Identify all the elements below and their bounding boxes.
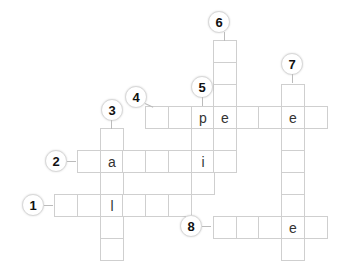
clue-3-label: 3 [108,103,115,118]
grid-cell-letter[interactable]: e [281,216,305,239]
clue-7-pointer [292,74,293,83]
grid-cell[interactable] [77,194,101,217]
grid-cell[interactable] [236,106,260,129]
grid-cell-letter[interactable]: e [213,106,237,129]
grid-cell[interactable] [304,216,328,239]
clue-1-label: 1 [29,198,36,213]
grid-cell[interactable] [54,194,78,217]
grid-cell[interactable] [281,172,305,195]
clue-number-1: 1 [22,194,44,216]
clue-8-pointer [202,226,211,227]
grid-cell[interactable] [100,172,124,195]
grid-cell[interactable] [213,150,237,173]
grid-cell-letter[interactable]: e [281,106,305,129]
grid-cell[interactable] [281,238,305,261]
grid-cell[interactable] [236,216,260,239]
clue-number-6: 6 [208,11,230,33]
grid-cell-letter[interactable]: a [100,150,124,173]
clue-number-8: 8 [180,215,202,237]
grid-cell[interactable] [100,128,124,151]
clue-1-pointer [44,205,53,206]
grid-cell[interactable] [168,150,192,173]
clue-5-pointer [202,97,203,106]
grid-cell-letter[interactable]: i [191,150,215,173]
clue-number-5: 5 [191,76,213,98]
grid-cell[interactable] [213,62,237,85]
clue-2-label: 2 [52,154,59,169]
grid-cell[interactable] [281,150,305,173]
clue-number-3: 3 [101,99,123,121]
grid-cell[interactable] [281,84,305,107]
grid-cell[interactable] [258,216,282,239]
clue-6-label: 6 [215,15,222,30]
clue-8-label: 8 [187,219,194,234]
clue-2-pointer [67,161,76,162]
grid-cell[interactable] [191,128,215,151]
grid-cell[interactable] [213,40,237,63]
clue-7-label: 7 [288,57,295,72]
grid-cell[interactable] [258,106,282,129]
grid-cell[interactable] [145,194,169,217]
grid-cell[interactable] [191,172,215,195]
grid-cell[interactable] [168,194,192,217]
grid-cell-letter[interactable]: p [191,106,215,129]
grid-cell-letter[interactable]: l [100,194,124,217]
clue-number-4: 4 [125,86,147,108]
clue-6-pointer [224,32,225,41]
grid-cell[interactable] [122,194,146,217]
grid-cell[interactable] [145,106,169,129]
clue-4-label: 4 [132,90,139,105]
grid-cell[interactable] [122,150,146,173]
grid-cell[interactable] [77,150,101,173]
clue-number-7: 7 [281,53,303,75]
grid-cell[interactable] [304,106,328,129]
grid-cell[interactable] [213,84,237,107]
grid-cell[interactable] [168,106,192,129]
clue-3-pointer [111,120,112,129]
grid-cell[interactable] [281,128,305,151]
grid-cell[interactable] [213,128,237,151]
grid-cell[interactable] [281,194,305,217]
grid-cell[interactable] [100,238,124,261]
clue-number-2: 2 [45,150,67,172]
clue-5-label: 5 [198,80,205,95]
grid-cell[interactable] [145,150,169,173]
grid-cell[interactable] [213,216,237,239]
grid-cell[interactable] [100,216,124,239]
